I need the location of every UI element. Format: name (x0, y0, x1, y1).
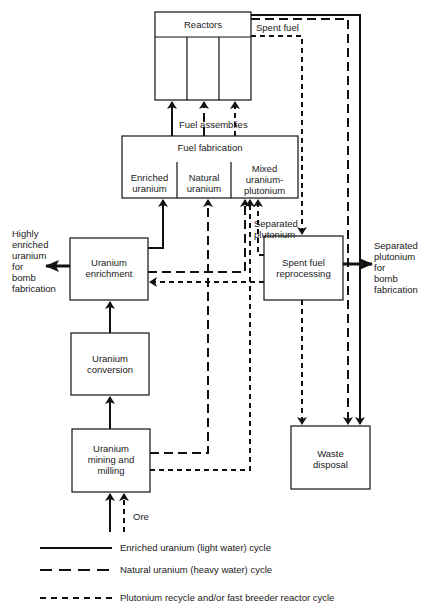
spent-fuel-label: Spent fuel (256, 22, 299, 33)
legend-long-dash-label: Natural uranium (heavy water) cycle (120, 564, 272, 575)
fuel-cycle-diagram (0, 0, 432, 609)
fuel-fabrication-label: Fuel fabrication (122, 142, 298, 153)
fuel-assemblies-label: Fuel assemblies (179, 119, 248, 130)
legend-short-dash-label: Plutonium recycle and/or fast breeder re… (120, 592, 334, 603)
separated-plutonium-label: Separated plutonium (254, 218, 298, 240)
uranium-mining-label: Uranium mining and milling (72, 443, 150, 476)
natural-uranium-section: Natural uranium (177, 172, 231, 194)
ore-label: Ore (133, 511, 149, 522)
legend-solid-label: Enriched uranium (light water) cycle (120, 542, 271, 553)
mixed-uranium-plutonium-section: Mixed uranium- plutonium (231, 163, 298, 196)
waste-disposal-label: Waste disposal (291, 448, 370, 470)
spent-fuel-reprocessing-label: Spent fuel reprocessing (264, 257, 343, 279)
uranium-conversion-label: Uranium conversion (71, 353, 149, 375)
pu-output-label: Separated plutonium for bomb fabrication (374, 240, 418, 295)
uranium-enrichment-label: Uranium enrichment (70, 257, 148, 279)
enriched-uranium-section: Enriched uranium (122, 172, 177, 194)
heu-output-label: Highly enriched uranium for bomb fabrica… (12, 228, 56, 294)
reactors-label: Reactors (155, 19, 251, 30)
